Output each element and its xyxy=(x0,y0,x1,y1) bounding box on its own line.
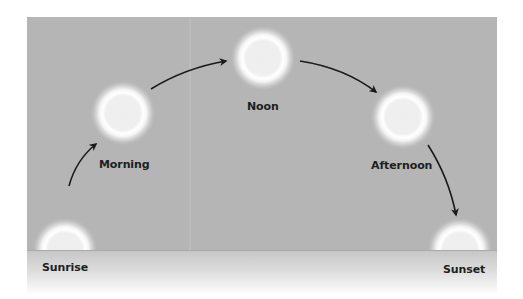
label-noon: Noon xyxy=(247,100,279,113)
label-sunrise: Sunrise xyxy=(42,261,88,274)
sun-morning-icon xyxy=(90,80,156,146)
sun-noon-icon xyxy=(230,25,296,91)
diagram-canvas xyxy=(0,0,523,299)
label-sunset: Sunset xyxy=(443,263,485,276)
ground xyxy=(27,250,497,295)
sun-path-diagram: Sunrise Morning Noon Afternoon Sunset xyxy=(0,0,523,299)
label-morning: Morning xyxy=(99,158,150,171)
label-afternoon: Afternoon xyxy=(371,159,432,172)
sun-afternoon-icon xyxy=(370,84,436,150)
